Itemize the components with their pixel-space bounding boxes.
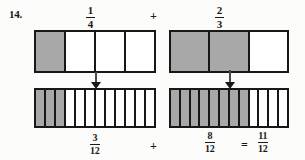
fraction-cell-empty	[96, 32, 126, 71]
fraction-cell-empty	[136, 90, 146, 126]
fraction-cell-empty	[126, 90, 136, 126]
fraction-cell-shaded	[36, 32, 66, 71]
fraction-cell-empty	[250, 90, 260, 126]
fraction-cell-empty	[86, 90, 96, 126]
fraction-cell-empty	[66, 90, 76, 126]
fraction-denominator: 12	[258, 144, 268, 154]
fraction-cell-shaded	[171, 90, 181, 126]
fraction-cell-shaded	[191, 90, 201, 126]
fraction-cell-empty	[259, 90, 269, 126]
problem-number: 14.	[9, 8, 22, 20]
equals-operator: =	[241, 139, 248, 151]
fraction-denominator: 3	[217, 19, 222, 30]
fraction-two-thirds: 2 3	[215, 5, 224, 30]
fraction-cell-shaded	[46, 90, 56, 126]
fraction-cell-empty	[250, 32, 287, 71]
fraction-cell-shaded	[210, 90, 220, 126]
fraction-numerator: 2	[217, 5, 222, 16]
fraction-cell-empty	[116, 90, 126, 126]
arrow-down-icon	[224, 70, 236, 89]
plus-operator-top: +	[150, 10, 157, 22]
fraction-numerator: 8	[207, 131, 212, 141]
fraction-cell-empty	[279, 90, 287, 126]
fraction-cell-shaded	[181, 90, 191, 126]
top-left-fraction-bar	[34, 30, 156, 73]
fraction-denominator: 12	[205, 144, 215, 154]
fraction-three-twelfths: 3 12	[90, 133, 100, 156]
fraction-eleven-twelfths-result: 11 12	[258, 131, 268, 154]
bottom-right-fraction-bar	[169, 88, 289, 128]
fraction-cell-shaded	[230, 90, 240, 126]
fraction-cell-empty	[269, 90, 279, 126]
fraction-cell-empty	[76, 90, 86, 126]
fraction-one-fourth: 1 4	[86, 5, 95, 30]
fraction-cell-empty	[66, 32, 96, 71]
fraction-cell-empty	[96, 90, 106, 126]
arrow-down-icon	[90, 72, 102, 89]
fraction-numerator: 3	[92, 133, 97, 143]
plus-operator-bottom: +	[150, 140, 157, 152]
fraction-denominator: 4	[88, 19, 93, 30]
fraction-cell-shaded	[210, 32, 249, 71]
fraction-cell-shaded	[36, 90, 46, 126]
bottom-left-fraction-bar	[34, 88, 156, 128]
fraction-cell-shaded	[171, 32, 210, 71]
fraction-cell-empty	[106, 90, 116, 126]
fraction-denominator: 12	[90, 146, 100, 156]
fraction-cell-empty	[126, 32, 154, 71]
fraction-numerator: 11	[258, 131, 267, 141]
fraction-numerator: 1	[88, 5, 93, 16]
fraction-cell-shaded	[200, 90, 210, 126]
worksheet-canvas: 14. 1 4 + 2 3 3 12 + 8 12 = 11 12	[0, 0, 305, 160]
top-right-fraction-bar	[169, 30, 289, 73]
fraction-cell-shaded	[240, 90, 250, 126]
fraction-eight-twelfths: 8 12	[205, 131, 215, 154]
fraction-cell-empty	[146, 90, 154, 126]
fraction-cell-shaded	[56, 90, 66, 126]
fraction-cell-shaded	[220, 90, 230, 126]
